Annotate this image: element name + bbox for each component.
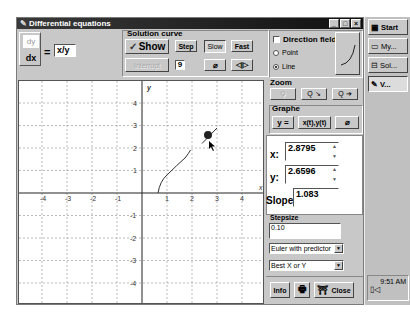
footer-divider xyxy=(266,276,363,277)
svg-text:3: 3 xyxy=(215,195,219,202)
equals-sign: = xyxy=(44,46,50,58)
dy-label: dy xyxy=(23,35,39,48)
dydx-button[interactable]: dy dx xyxy=(19,32,41,66)
radio-line[interactable]: Line xyxy=(273,63,295,70)
solution-plot: -4-3-2-1 1234 4321 -1-2-3-4 y x xyxy=(19,81,264,304)
minimize-button[interactable]: _ xyxy=(329,19,339,28)
printer-icon: 🖶 xyxy=(298,282,307,298)
radio-point-circle[interactable] xyxy=(273,50,279,56)
start-icon: ▦ xyxy=(371,23,379,32)
zoom-title: Zoom xyxy=(270,78,292,87)
parametric-button[interactable]: x(t),y(t) xyxy=(298,116,331,129)
show-button[interactable]: ✓ Show xyxy=(125,39,169,54)
magnifier-disabled-icon: ⚲ xyxy=(280,90,286,99)
differential-equations-window: ✎ Differential equations _ □ × dy dx = x… xyxy=(16,17,364,305)
method-dropdown[interactable]: Euler with predictor ▼ xyxy=(269,243,344,254)
pencil-icon: ✎ xyxy=(20,18,27,29)
scale-dropdown[interactable]: Best X or Y ▼ xyxy=(269,260,344,271)
step-button[interactable]: Step xyxy=(175,40,197,52)
taskbar-item-v[interactable]: ✎ V... xyxy=(368,76,408,92)
graph-canvas[interactable]: -4-3-2-1 1234 4321 -1-2-3-4 y x xyxy=(18,80,264,304)
taskbar-start[interactable]: ▦ Start xyxy=(368,19,408,35)
svg-text:1: 1 xyxy=(165,195,169,202)
svg-text:2: 2 xyxy=(133,145,137,152)
check-icon: ✓ xyxy=(129,41,137,52)
svg-text:-3: -3 xyxy=(130,257,136,264)
system-tray: 9:51 AM ▯◁ xyxy=(367,275,409,301)
svg-text:-4: -4 xyxy=(130,280,136,287)
svg-text:3: 3 xyxy=(133,122,137,129)
app-icon: ✎ xyxy=(371,80,378,89)
erase-graph-button[interactable]: ⌀ xyxy=(335,116,359,129)
chevron-down-icon[interactable]: ▼ xyxy=(334,244,343,253)
close-button[interactable]: ⛩ Close xyxy=(314,282,354,298)
svg-text:y: y xyxy=(146,84,152,92)
zoom-select-button[interactable]: ⚲ xyxy=(270,88,296,100)
door-icon: ⛩ xyxy=(317,285,328,295)
eraser-icon: ⌀ xyxy=(213,61,218,70)
svg-text:-1: -1 xyxy=(115,195,121,202)
taskbar-item-sol[interactable]: ⊟ Sol... xyxy=(368,57,408,73)
curve-preview-button[interactable] xyxy=(335,32,360,75)
direction-field-checkbox[interactable] xyxy=(273,36,280,43)
network-icon: ⊟ xyxy=(371,61,378,70)
y-spinner[interactable]: ▲▼ xyxy=(332,167,337,182)
graphe-title: Graphe xyxy=(272,104,300,113)
curve-count-field[interactable]: 9 xyxy=(175,60,185,70)
close-window-button[interactable]: × xyxy=(351,19,361,28)
info-button[interactable]: Info xyxy=(270,282,290,298)
svg-text:-1: -1 xyxy=(130,212,136,219)
stepsize-field[interactable]: 0.10 xyxy=(269,223,341,239)
svg-text:2: 2 xyxy=(190,195,194,202)
slope-label: Slope xyxy=(266,195,293,206)
title-bar[interactable]: ✎ Differential equations _ □ × xyxy=(17,18,363,29)
dx-label: dx xyxy=(20,51,42,65)
fast-button[interactable]: Fast xyxy=(231,40,253,52)
maximize-button[interactable]: □ xyxy=(340,19,350,28)
taskbar: ▦ Start ▭ My... ⊟ Sol... ✎ V... 9:51 AM … xyxy=(364,17,410,305)
computer-icon: ▭ xyxy=(371,42,379,51)
svg-text:-3: -3 xyxy=(65,195,71,202)
svg-text:4: 4 xyxy=(240,195,244,202)
radio-point[interactable]: Point xyxy=(273,49,298,56)
y-label: y: xyxy=(270,172,279,183)
solution-curve-title: Solution curve xyxy=(127,29,183,38)
taskbar-item-my[interactable]: ▭ My... xyxy=(368,38,408,54)
zoom-in-button[interactable]: Q ↘ xyxy=(301,88,327,100)
stepsize-title: Stepsize xyxy=(270,214,298,221)
eraser-icon: ⌀ xyxy=(345,118,350,127)
interrupt-button[interactable]: Interrupt xyxy=(125,58,169,72)
y-value-field[interactable]: 2.6596 ▲▼ xyxy=(285,165,339,184)
y-equals-button[interactable]: y = xyxy=(272,116,294,129)
left-right-arrows-icon: ◁|▷ xyxy=(236,61,248,69)
svg-text:1: 1 xyxy=(133,167,137,174)
erase-curve-button[interactable]: ⌀ xyxy=(204,59,226,71)
svg-text:x: x xyxy=(258,184,263,191)
svg-text:-2: -2 xyxy=(130,235,136,242)
svg-text:-2: -2 xyxy=(90,195,96,202)
zoom-pan-button[interactable]: Q ➔ xyxy=(332,88,358,100)
curve-icon xyxy=(338,39,358,69)
speaker-icon[interactable]: ◁ xyxy=(374,285,380,294)
slow-button[interactable]: Slow xyxy=(204,40,226,53)
x-label: x: xyxy=(270,149,279,160)
x-value-field[interactable]: 2.8795 ▲▼ xyxy=(285,142,339,161)
equation-input[interactable]: x/y xyxy=(54,44,76,57)
print-button[interactable]: 🖶 xyxy=(294,282,310,298)
direction-arrows-button[interactable]: ◁|▷ xyxy=(231,59,253,71)
radio-line-circle[interactable] xyxy=(273,64,279,70)
window-title: Differential equations xyxy=(29,18,111,29)
chevron-down-icon[interactable]: ▼ xyxy=(334,261,343,270)
svg-text:-4: -4 xyxy=(40,195,46,202)
x-spinner[interactable]: ▲▼ xyxy=(332,144,337,159)
direction-field-checkbox-row[interactable]: Direction field xyxy=(273,35,336,44)
svg-text:4: 4 xyxy=(133,100,137,107)
direction-field-label: Direction field xyxy=(283,35,336,44)
slope-value-field[interactable]: 1.083 xyxy=(293,188,339,207)
clock: 9:51 AM xyxy=(368,276,408,285)
tray-icons[interactable]: ▯◁ xyxy=(368,285,408,294)
